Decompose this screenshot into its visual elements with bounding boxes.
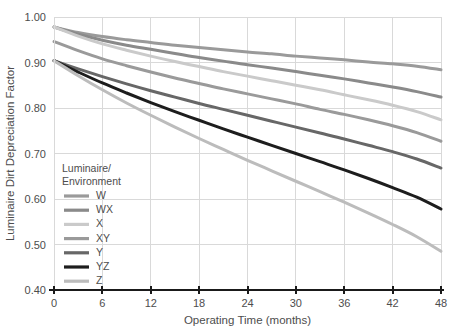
x-tick-label: 30 bbox=[290, 297, 302, 309]
x-tick-label: 18 bbox=[193, 297, 205, 309]
legend-label-y: Y bbox=[96, 246, 103, 258]
y-tick-label: 0.70 bbox=[25, 148, 46, 160]
x-tick-label: 36 bbox=[338, 297, 350, 309]
y-tick-label: 0.40 bbox=[25, 284, 46, 296]
legend-label-w: W bbox=[96, 189, 106, 201]
legend-label-xy: XY bbox=[96, 232, 110, 244]
y-tick-label: 0.80 bbox=[25, 102, 46, 114]
legend-label-wx: WX bbox=[96, 203, 113, 215]
x-tick-label: 0 bbox=[51, 297, 57, 309]
x-tick-label: 42 bbox=[387, 297, 399, 309]
y-axis-title: Luminaire Dirt Depreciation Factor bbox=[4, 66, 16, 241]
legend-label-z: Z bbox=[96, 274, 103, 286]
x-tick-label: 6 bbox=[99, 297, 105, 309]
legend-label-x: X bbox=[96, 217, 103, 229]
y-tick-label: 0.60 bbox=[25, 193, 46, 205]
legend-label-yz: YZ bbox=[96, 260, 110, 272]
x-tick-label: 24 bbox=[241, 297, 253, 309]
y-tick-label: 0.90 bbox=[25, 57, 46, 69]
legend-title: Luminaire/ bbox=[62, 162, 111, 174]
x-axis-title: Operating Time (months) bbox=[184, 314, 311, 326]
chart-container: 0.400.500.600.700.800.901.00061218243036… bbox=[0, 0, 452, 326]
y-tick-label: 1.00 bbox=[25, 11, 46, 23]
chart-legend: Luminaire/EnvironmentWWXXXYYYZZ bbox=[62, 162, 121, 286]
legend-title: Environment bbox=[62, 175, 121, 187]
tick-label-layer: 0.400.500.600.700.800.901.00061218243036… bbox=[25, 11, 448, 309]
grid-lines bbox=[54, 17, 441, 290]
x-tick-label: 12 bbox=[145, 297, 157, 309]
line-chart: 0.400.500.600.700.800.901.00061218243036… bbox=[0, 0, 452, 326]
axis-layer bbox=[49, 17, 444, 294]
x-tick-label: 48 bbox=[435, 297, 447, 309]
y-tick-label: 0.50 bbox=[25, 239, 46, 251]
